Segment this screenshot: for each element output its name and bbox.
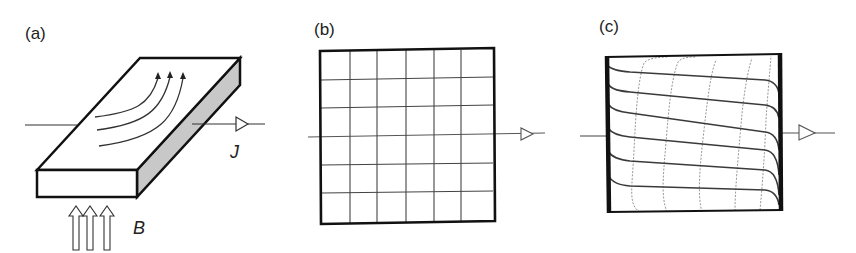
panel-label-a: (a) <box>25 24 46 44</box>
conductor-right-electrode <box>780 53 781 211</box>
current-density-label: J <box>230 142 239 163</box>
deflected-current-lines <box>608 66 779 205</box>
magnetic-field-label: B <box>133 218 145 239</box>
panel-label-c: (c) <box>599 17 619 37</box>
up-arrow-icon <box>83 206 97 250</box>
conductor-left-electrode <box>607 56 609 213</box>
conductor-top-edge <box>606 54 781 57</box>
panel-label-b: (b) <box>314 20 335 40</box>
figure-canvas <box>0 0 856 253</box>
current-axis-line <box>308 133 545 137</box>
slab-front-face <box>37 170 137 197</box>
up-arrow-icon <box>69 206 83 250</box>
current-direction-arrow-icon <box>236 117 248 131</box>
magnetic-field-arrows <box>69 206 114 250</box>
up-arrow-icon <box>100 206 114 250</box>
panel-b-square <box>308 48 545 224</box>
panel-c-square <box>580 53 835 213</box>
current-direction-arrow-icon <box>799 125 815 140</box>
current-direction-arrow-icon <box>521 128 533 140</box>
conductor-bottom-edge <box>608 210 782 212</box>
